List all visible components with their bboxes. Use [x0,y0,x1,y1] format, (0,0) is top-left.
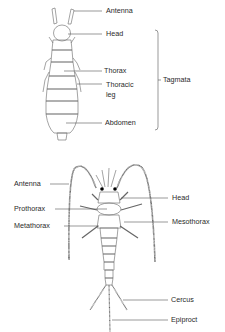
label-top-thorax: Thorax [104,67,126,75]
top-antenna-right [68,9,74,24]
diagram-canvas [0,0,225,332]
label-top-head: Head [106,30,123,38]
eye-right [113,187,117,191]
label-epiproct: Epiproct [171,316,197,324]
label-metathorax: Metathorax [14,222,50,230]
label-cercus: Cercus [171,296,194,304]
top-leader-lines [64,11,102,123]
label-bottom-head: Head [172,194,189,202]
label-prothorax: Prothorax [14,205,45,213]
tagmata-bracket [155,30,161,130]
label-top-thoracic-leg-2: leg [106,91,116,99]
label-top-antenna: Antenna [106,7,133,15]
label-top-abdomen: Abdomen [105,119,136,127]
bottom-insect-illustration [69,165,155,332]
top-insect-illustration [43,8,81,140]
label-tagmata: Tagmata [163,76,191,84]
label-top-thoracic-leg-1: Thoracic [106,81,134,89]
eye-left [100,187,104,191]
label-bottom-antenna: Antenna [14,180,41,188]
top-antenna-left [52,8,57,24]
label-mesothorax: Mesothorax [172,218,210,226]
top-head [54,25,71,41]
